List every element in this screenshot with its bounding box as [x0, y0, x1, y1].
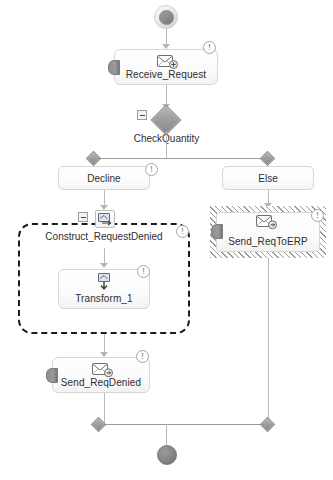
join-bar: [99, 424, 269, 425]
transform-subprocess-icon: [95, 210, 115, 228]
warning-glyph: !: [208, 43, 211, 52]
subprocess-construct-request-denied-label: Construct_RequestDenied: [18, 231, 190, 242]
split-node-right[interactable]: [260, 151, 276, 167]
collapse-toggle-check-quantity[interactable]: [137, 110, 147, 120]
status-badge-warning-transform[interactable]: !: [137, 265, 150, 278]
activity-transform-1-label: Transform_1: [59, 293, 149, 304]
start-event[interactable]: [154, 5, 178, 29]
warning-glyph: !: [141, 352, 144, 361]
collapse-toggle-construct-request-denied[interactable]: [78, 212, 88, 222]
end-event[interactable]: [157, 445, 177, 465]
transform-icon: [94, 273, 114, 291]
split-node-left[interactable]: [86, 151, 102, 167]
status-badge-warning-senderp[interactable]: !: [311, 209, 324, 222]
connector-gateway-to-split: [166, 131, 167, 158]
inbound-pin-icon: [46, 368, 58, 383]
branch-condition-else[interactable]: Else: [222, 166, 314, 190]
connector-join-to-end: [166, 424, 167, 445]
split-bar: [93, 158, 267, 159]
activity-send-req-denied-label: Send_ReqDenied: [53, 377, 149, 388]
status-badge-warning-senddenied[interactable]: !: [136, 350, 149, 363]
arrow-construct-to-transform: [100, 263, 108, 268]
branch-condition-decline-label: Decline: [87, 173, 120, 184]
send-message-icon: [91, 361, 113, 378]
join-node-right[interactable]: [260, 417, 276, 433]
receive-message-icon: [156, 53, 178, 70]
warning-glyph: !: [142, 267, 145, 276]
warning-glyph: !: [316, 211, 319, 220]
warning-glyph: !: [181, 227, 184, 236]
warning-glyph: !: [150, 165, 153, 174]
activity-send-req-to-erp-label: Send_ReqToERP: [217, 236, 319, 247]
branch-condition-else-label: Else: [258, 173, 277, 184]
status-badge-warning[interactable]: !: [203, 41, 216, 54]
send-message-icon: [255, 213, 277, 230]
status-badge-warning-decline[interactable]: !: [145, 163, 158, 176]
inbound-pin-icon: [108, 60, 120, 75]
connector-senderp-to-join: [268, 258, 269, 424]
activity-receive-request-label: Receive_Request: [115, 69, 217, 80]
status-badge-warning-construct[interactable]: !: [176, 225, 189, 238]
workflow-diagram-canvas: Receive_Request ! CheckQuantity Decline …: [0, 0, 333, 480]
connector-senddenied-to-join: [104, 393, 105, 424]
inbound-pin-icon: [211, 224, 223, 239]
branch-condition-decline[interactable]: Decline: [58, 166, 150, 190]
